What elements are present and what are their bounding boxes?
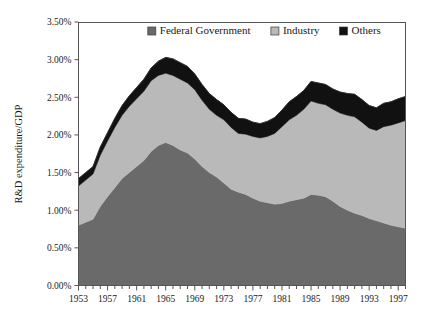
x-tick-label: 1953 xyxy=(69,294,88,304)
x-tick-label: 1961 xyxy=(127,294,146,304)
legend-label-others: Others xyxy=(352,24,381,36)
y-tick-label: 2.50% xyxy=(47,93,72,103)
x-tick-label: 1965 xyxy=(156,294,175,304)
stacked-area-chart: 0.00%0.50%1.00%1.50%2.00%2.50%3.00%3.50%… xyxy=(0,0,424,318)
x-tick-label: 1997 xyxy=(389,294,408,304)
x-tick-label: 1957 xyxy=(98,294,117,304)
legend-label-industry: Industry xyxy=(283,24,320,36)
legend-label-federal-government: Federal Government xyxy=(160,24,251,36)
x-tick-label: 1993 xyxy=(360,294,379,304)
x-tick-label: 1969 xyxy=(185,294,204,304)
y-tick-label: 3.50% xyxy=(47,17,72,27)
legend-swatch-industry xyxy=(271,27,279,35)
y-tick-label: 1.50% xyxy=(47,168,72,178)
x-tick-label: 1973 xyxy=(214,294,233,304)
x-tick-label: 1989 xyxy=(331,294,350,304)
y-tick-label: 2.00% xyxy=(47,130,72,140)
y-tick-label: 0.50% xyxy=(47,243,72,253)
y-tick-label: 3.00% xyxy=(47,55,72,65)
x-tick-label: 1981 xyxy=(272,294,291,304)
y-tick-label: 0.00% xyxy=(47,281,72,291)
x-tick-label: 1977 xyxy=(243,294,262,304)
legend-swatch-federal-government xyxy=(148,27,156,35)
chart-container: 0.00%0.50%1.00%1.50%2.00%2.50%3.00%3.50%… xyxy=(0,0,424,318)
y-tick-label: 1.00% xyxy=(47,206,72,216)
legend-swatch-others xyxy=(340,27,348,35)
x-tick-label: 1985 xyxy=(302,294,321,304)
y-axis-title: R&D expenditure/GDP xyxy=(13,104,24,203)
